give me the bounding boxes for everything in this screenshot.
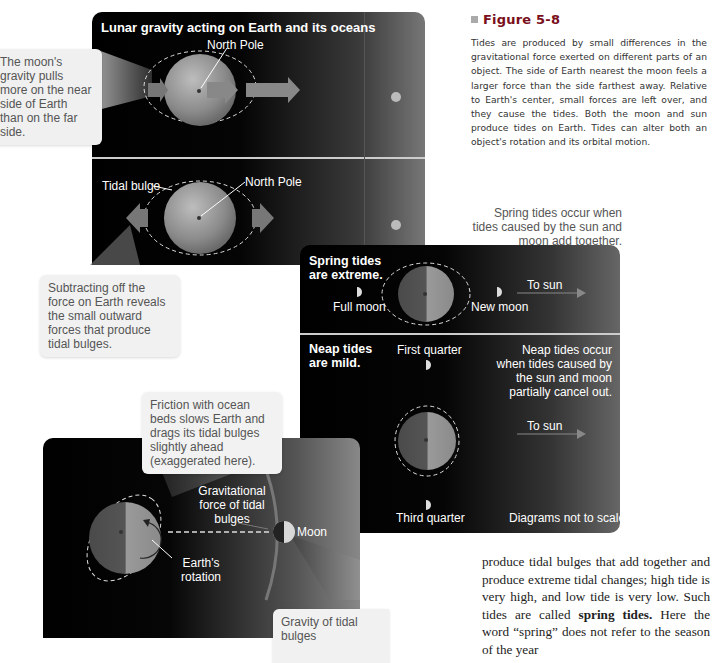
figure-number-label: Figure 5-8 bbox=[483, 12, 560, 27]
friction-moon-dark bbox=[273, 521, 284, 543]
callout-friction: Friction with ocean beds slows Earth and… bbox=[142, 392, 282, 474]
figure-square-icon bbox=[471, 16, 478, 23]
figure-caption: Tides are produced by small differences … bbox=[471, 36, 707, 150]
callout-gravity-bulges: Gravity of tidal bulges bbox=[273, 609, 389, 663]
body-paragraph: produce tidal bulges that add together a… bbox=[482, 553, 710, 658]
earth-rotation-label: Earth's rotation bbox=[174, 556, 228, 584]
figure-number: Figure 5-8 bbox=[471, 12, 560, 27]
moon-label: Moon bbox=[297, 525, 327, 539]
spring-tides-term: spring tides. bbox=[579, 607, 653, 622]
callout-wedge-gravity bbox=[290, 535, 360, 600]
friction-earth bbox=[89, 502, 161, 574]
friction-earth-pole bbox=[119, 530, 123, 534]
grav-force-label: Gravitational force of tidal bulges bbox=[194, 484, 270, 526]
